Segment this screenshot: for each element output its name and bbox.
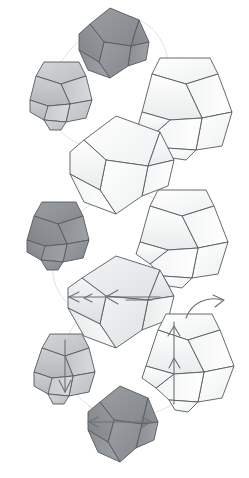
diagram-canvas [0,0,249,478]
curved-arrowhead-right [213,295,224,307]
crystal-left-upper [30,62,92,130]
crystal-left-arrowed [34,334,95,404]
crystal-left-lower [27,202,89,270]
crystal-top-dark [79,8,149,78]
crystal-morphology-diagram [0,0,249,478]
crystal-bottom-dark [88,386,158,462]
